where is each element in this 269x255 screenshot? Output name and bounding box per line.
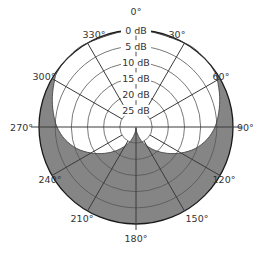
angle-label-300: 300°	[33, 71, 56, 82]
db-label: 15 dB	[122, 73, 150, 84]
angle-label-330: 330°	[83, 29, 106, 40]
db-label: 5 dB	[125, 41, 147, 52]
angle-label-240: 240°	[39, 174, 62, 185]
angle-label-270: 270°	[10, 122, 33, 133]
db-label: 0 dB	[125, 25, 147, 36]
angle-label-150: 150°	[186, 213, 209, 224]
db-label: 20 dB	[122, 89, 150, 100]
angle-label-120: 120°	[213, 174, 236, 185]
angle-label-180: 180°	[125, 233, 148, 244]
db-label: 25 dB	[122, 105, 150, 116]
polar-pattern-diagram: 0 dB5 dB10 dB15 dB20 dB25 dB 0°30°60°90°…	[0, 0, 269, 255]
db-label: 10 dB	[122, 57, 150, 68]
angle-label-30: 30°	[169, 29, 186, 40]
angle-label-60: 60°	[213, 71, 230, 82]
angle-spokes	[31, 24, 241, 230]
angle-label-90: 90°	[237, 122, 254, 133]
angle-label-210: 210°	[71, 213, 94, 224]
angle-label-0: 0°	[131, 6, 142, 17]
